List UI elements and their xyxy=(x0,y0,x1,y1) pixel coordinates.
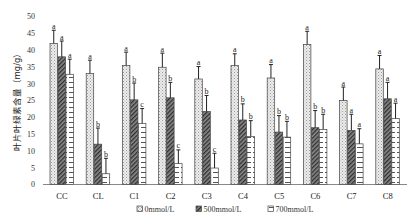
bar xyxy=(267,78,275,185)
bar xyxy=(376,69,384,185)
bar xyxy=(239,120,247,185)
bar xyxy=(340,101,348,185)
significance-letter: b xyxy=(313,102,317,111)
bar xyxy=(94,144,102,184)
bar-group-c7: aaa xyxy=(340,79,364,185)
bar xyxy=(384,99,392,185)
bar-group-c4: abb xyxy=(231,45,255,184)
bar xyxy=(86,74,94,185)
x-tick-label: C4 xyxy=(238,191,249,201)
significance-letter: a xyxy=(305,23,309,32)
significance-letter: a xyxy=(386,74,390,83)
significance-letter: b xyxy=(104,150,108,159)
legend-swatch xyxy=(137,206,143,212)
significance-letter: b xyxy=(285,113,289,122)
bar xyxy=(138,123,146,184)
significance-letter: a xyxy=(350,106,354,115)
significance-letter: b xyxy=(96,120,100,129)
y-tick-label: 45 xyxy=(27,29,35,38)
bar-group-c2: abc xyxy=(159,45,183,185)
significance-letter: c xyxy=(213,145,217,154)
legend-item: 0mmol/L xyxy=(137,205,174,214)
bar xyxy=(392,119,400,185)
x-tick-label: CL xyxy=(93,191,104,201)
bar xyxy=(130,100,138,185)
bar-group-c5: abb xyxy=(267,56,291,184)
bar xyxy=(122,66,129,185)
bar xyxy=(348,130,356,184)
bar-group-c8: aaa xyxy=(376,47,400,185)
significance-letter: a xyxy=(394,95,398,104)
bar-group-c1: abc xyxy=(122,44,145,185)
x-tick-label: C8 xyxy=(383,191,393,201)
x-tick-label: CC xyxy=(56,191,68,201)
bar xyxy=(66,74,74,184)
legend-item: 700mmol/L xyxy=(268,205,313,214)
y-tick-label: 0 xyxy=(31,180,35,189)
x-tick-label: C5 xyxy=(274,191,284,201)
x-tick-label: C7 xyxy=(347,191,357,201)
significance-letter: c xyxy=(140,100,144,109)
bar xyxy=(203,112,211,185)
y-tick-label: 35 xyxy=(27,63,35,72)
bar-chart: 叶片叶绿素含量（mg/g） 05101520253035404550 CCCLC… xyxy=(0,0,418,220)
bar-group-c6: abb xyxy=(303,23,327,185)
significance-letter: a xyxy=(378,47,382,56)
x-tick-label: C1 xyxy=(129,191,139,201)
significance-letter: a xyxy=(342,79,346,88)
y-tick-label: 20 xyxy=(27,113,35,122)
legend-swatch xyxy=(268,206,274,212)
bar-group-cl: abb xyxy=(86,52,110,185)
bar xyxy=(356,144,364,185)
bar xyxy=(231,66,239,185)
legend-swatch xyxy=(196,206,202,212)
significance-letter: a xyxy=(60,33,64,42)
significance-letter: a xyxy=(269,56,273,65)
x-tick-label: C2 xyxy=(166,191,176,201)
y-tick-label: 25 xyxy=(27,96,35,105)
y-tick-label: 30 xyxy=(27,80,35,89)
bar xyxy=(159,67,167,184)
significance-letter: b xyxy=(321,106,325,115)
bars: aaaabbabcabcabcabbabbabbaaaaaa xyxy=(50,22,399,185)
y-tick-label: 10 xyxy=(27,147,35,156)
significance-letter: b xyxy=(168,74,172,83)
x-axis: CCCLC1C2C3C4C5C6C7C8 xyxy=(43,185,407,202)
significance-letter: a xyxy=(358,120,362,129)
significance-letter: c xyxy=(177,141,181,150)
bar xyxy=(211,168,219,184)
legend-label: 700mmol/L xyxy=(276,205,314,214)
significance-letter: b xyxy=(205,87,209,96)
bar xyxy=(247,136,255,184)
bar xyxy=(275,132,283,184)
bar xyxy=(102,174,110,185)
bar-group-c3: abc xyxy=(195,58,219,184)
significance-letter: b xyxy=(132,75,136,84)
legend-label: 0mmol/L xyxy=(145,205,175,214)
y-axis: 05101520253035404550 xyxy=(27,12,35,189)
bar-group-cc: aaa xyxy=(50,22,74,185)
y-axis-label: 叶片叶绿素含量（mg/g） xyxy=(12,49,22,152)
bar xyxy=(50,43,58,184)
significance-letter: a xyxy=(197,58,201,67)
x-tick-label: C3 xyxy=(202,191,212,201)
significance-letter: a xyxy=(161,45,165,54)
bar xyxy=(311,128,319,185)
significance-letter: b xyxy=(277,107,281,116)
y-tick-label: 15 xyxy=(27,130,35,139)
bar xyxy=(167,98,175,185)
y-axis-title: 叶片叶绿素含量（mg/g） xyxy=(12,49,22,152)
bar xyxy=(175,164,183,185)
significance-letter: a xyxy=(88,52,92,61)
y-tick-label: 5 xyxy=(31,164,35,173)
significance-letter: a xyxy=(233,45,237,54)
legend: 0mmol/L500mmol/L700mmol/L xyxy=(137,205,313,214)
significance-letter: a xyxy=(124,44,128,53)
significance-letter: b xyxy=(249,112,253,121)
legend-item: 500mmol/L xyxy=(196,205,241,214)
legend-label: 500mmol/L xyxy=(204,205,242,214)
bar xyxy=(283,137,291,184)
y-tick-label: 40 xyxy=(27,46,35,55)
bar xyxy=(195,79,203,185)
y-tick-label: 50 xyxy=(27,12,35,21)
